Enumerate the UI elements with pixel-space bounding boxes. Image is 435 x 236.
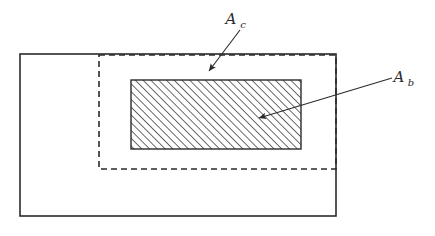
label-ab-base: A xyxy=(392,68,405,86)
diagram-canvas: A c A b xyxy=(0,0,435,236)
label-ac-subscript: c xyxy=(240,19,246,30)
label-ab-subscript: b xyxy=(408,77,414,88)
label-ac-base: A xyxy=(224,10,237,28)
hatched-rectangle-fill xyxy=(131,80,301,149)
figure-container: A c A b xyxy=(0,0,435,236)
